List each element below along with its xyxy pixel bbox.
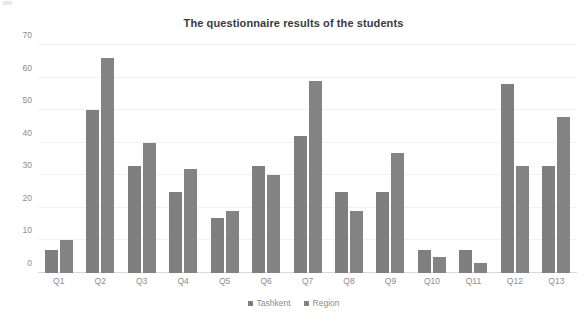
bar — [418, 250, 431, 273]
plot-area: 010203040506070 — [38, 45, 577, 273]
bar-group — [38, 45, 79, 273]
y-axis-tick-label: 30 — [23, 160, 32, 170]
bar — [391, 153, 404, 274]
bar — [226, 211, 239, 273]
legend-label: Region — [313, 298, 340, 308]
bar — [128, 166, 141, 273]
bar-group — [494, 45, 535, 273]
bar-group — [204, 45, 245, 273]
x-axis-tick-label: Q13 — [536, 276, 577, 286]
bar — [350, 211, 363, 273]
bar — [335, 192, 348, 273]
y-axis-tick-label: 10 — [23, 225, 32, 235]
y-axis-tick-label: 40 — [23, 128, 32, 138]
bar — [143, 143, 156, 273]
x-axis-tick-label: Q2 — [79, 276, 120, 286]
chart-title: The questionnaire results of the student… — [0, 17, 587, 29]
bar — [211, 218, 224, 273]
y-axis-tick-label: 20 — [23, 193, 32, 203]
bar — [557, 117, 570, 273]
bar — [267, 175, 280, 273]
bar — [169, 192, 182, 273]
x-axis-tick-label: Q9 — [370, 276, 411, 286]
bar-group — [370, 45, 411, 273]
x-axis-tick-label: Q4 — [162, 276, 203, 286]
x-axis-tick-label: Q10 — [411, 276, 452, 286]
bar — [501, 84, 514, 273]
chart-container: The questionnaire results of the student… — [0, 0, 587, 326]
bar-groups — [38, 45, 577, 273]
legend-item[interactable]: Region — [304, 298, 340, 308]
bar-group — [453, 45, 494, 273]
x-axis-tick-label: Q12 — [494, 276, 535, 286]
bar — [252, 166, 265, 273]
bar — [516, 166, 529, 273]
legend-label: Tashkent — [257, 298, 291, 308]
bar-group — [287, 45, 328, 273]
x-axis-tick-label: Q6 — [245, 276, 286, 286]
bar — [101, 58, 114, 273]
legend-item[interactable]: Tashkent — [248, 298, 291, 308]
y-axis-tick-label: 70 — [23, 30, 32, 40]
bar — [309, 81, 322, 273]
bar-group — [536, 45, 577, 273]
bar-group — [121, 45, 162, 273]
bar — [45, 250, 58, 273]
y-axis-tick-label: 0 — [27, 258, 32, 268]
bar-group — [162, 45, 203, 273]
x-axis-tick-label: Q8 — [328, 276, 369, 286]
bar — [376, 192, 389, 273]
bar — [184, 169, 197, 273]
bar — [294, 136, 307, 273]
x-axis-tick-label: Q3 — [121, 276, 162, 286]
x-axis-tick-label: Q1 — [38, 276, 79, 286]
y-axis-tick-label: 60 — [23, 63, 32, 73]
y-axis-tick-label: 50 — [23, 95, 32, 105]
x-axis-tick-label: Q5 — [204, 276, 245, 286]
x-axis-labels: Q1Q2Q3Q4Q5Q6Q7Q8Q9Q10Q11Q12Q13 — [38, 276, 577, 286]
bar — [60, 240, 73, 273]
bar-group — [411, 45, 452, 273]
scan-artifact — [3, 1, 12, 5]
bar — [542, 166, 555, 273]
bar — [474, 263, 487, 273]
x-axis-tick-label: Q11 — [453, 276, 494, 286]
legend-swatch-icon — [304, 301, 309, 306]
bar — [459, 250, 472, 273]
x-axis-tick-label: Q7 — [287, 276, 328, 286]
bar-group — [328, 45, 369, 273]
bar-group — [79, 45, 120, 273]
legend-swatch-icon — [248, 301, 253, 306]
bar — [433, 257, 446, 273]
chart-legend: TashkentRegion — [0, 298, 587, 308]
bar — [86, 110, 99, 273]
bar-group — [245, 45, 286, 273]
